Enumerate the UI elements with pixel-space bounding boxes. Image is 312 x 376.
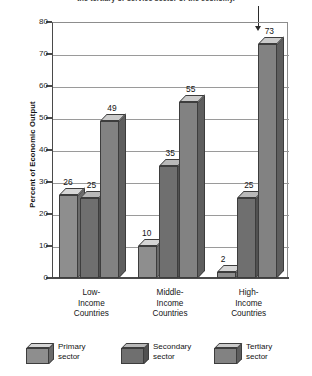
legend-label-line: sector: [58, 352, 86, 362]
bar-side-face: [198, 95, 205, 278]
bar: [258, 44, 277, 278]
bar-front-face: [179, 102, 198, 278]
bar-front-face: [258, 44, 277, 278]
category-label-line: Countries: [46, 309, 136, 320]
legend-label-line: Primary: [58, 342, 86, 352]
category-label-line: Countries: [204, 309, 294, 320]
legend-cube-front: [214, 348, 237, 364]
legend: PrimarysectorSecondarysectorTertiarysect…: [26, 338, 298, 370]
bar: [138, 246, 157, 278]
category-label-line: Low-: [46, 288, 136, 299]
bar: [80, 198, 99, 278]
y-tick-label: 0: [18, 273, 48, 282]
bar-value-label: 73: [265, 26, 274, 36]
bar-value-label: 2: [221, 254, 226, 264]
bar-value-label: 26: [63, 177, 72, 187]
legend-swatch-cube-icon: [26, 343, 49, 360]
bar-value-label: 49: [107, 103, 116, 113]
y-tick-label: 50: [18, 113, 48, 122]
caption-clipped: the tertiary or service sector of the ec…: [0, 0, 312, 8]
gridline: [53, 55, 289, 56]
bar-front-face: [80, 198, 99, 278]
legend-label-line: sector: [246, 352, 272, 362]
category-label-line: Income: [204, 299, 294, 310]
legend-cube-front: [121, 348, 144, 364]
y-tick-label: 70: [18, 49, 48, 58]
bar-side-face: [119, 114, 126, 278]
legend-swatch-cube-icon: [214, 343, 237, 360]
y-tick-label: 20: [18, 209, 48, 218]
category-label: High-IncomeCountries: [204, 288, 294, 320]
legend-label-line: Secondary: [153, 342, 191, 352]
category-label-line: High-: [204, 288, 294, 299]
bar-value-label: 25: [87, 180, 96, 190]
bar-value-label: 25: [244, 180, 253, 190]
bar-value-label: 35: [166, 148, 175, 158]
legend-label-line: sector: [153, 352, 191, 362]
category-label: Middle-IncomeCountries: [125, 288, 215, 320]
y-tick-label: 30: [18, 177, 48, 186]
y-tick-label: 80: [18, 17, 48, 26]
legend-label: Tertiarysector: [246, 342, 272, 362]
category-label-line: Countries: [125, 309, 215, 320]
bar-chart: the tertiary or service sector of the ec…: [0, 0, 312, 376]
caption-text: the tertiary or service sector of the ec…: [0, 0, 312, 3]
bar-front-face: [217, 272, 236, 278]
bar: [59, 195, 78, 278]
gridline: [53, 119, 289, 120]
bar-front-face: [100, 121, 119, 278]
y-tick-label: 40: [18, 145, 48, 154]
bar-value-label: 10: [142, 228, 151, 238]
legend-label: Secondarysector: [153, 342, 191, 362]
bar: [217, 272, 236, 278]
category-label-line: Income: [125, 299, 215, 310]
legend-cube-front: [26, 348, 49, 364]
legend-swatch-cube-icon: [121, 343, 144, 360]
bar: [159, 166, 178, 278]
bar: [237, 198, 256, 278]
gridline: [53, 87, 289, 88]
category-label: Low-IncomeCountries: [46, 288, 136, 320]
legend-label-line: Tertiary: [246, 342, 272, 352]
bar: [100, 121, 119, 278]
category-label-line: Income: [46, 299, 136, 310]
bar-side-face: [277, 37, 284, 278]
bar-value-label: 55: [186, 84, 195, 94]
bar-front-face: [237, 198, 256, 278]
bar-front-face: [159, 166, 178, 278]
bar-front-face: [138, 246, 157, 278]
legend-label: Primarysector: [58, 342, 86, 362]
y-tick-label: 10: [18, 241, 48, 250]
y-tick-label: 60: [18, 81, 48, 90]
bar: [179, 102, 198, 278]
category-label-line: Middle-: [125, 288, 215, 299]
bar-front-face: [59, 195, 78, 278]
